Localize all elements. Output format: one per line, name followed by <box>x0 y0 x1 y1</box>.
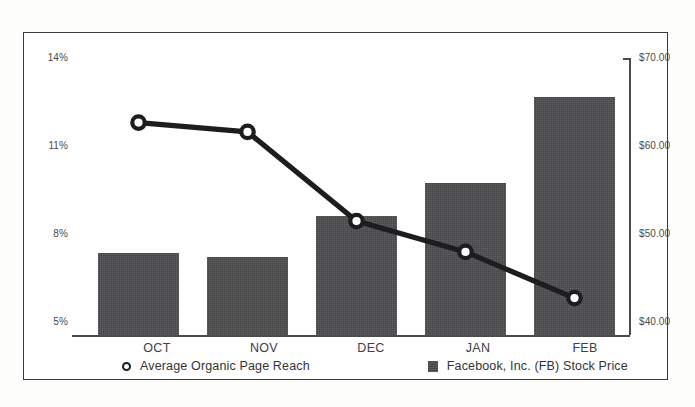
x-axis-label-nov: NOV <box>228 342 300 355</box>
chart-legend: Average Organic Page Reach Facebook, Inc… <box>84 355 644 377</box>
y-axis-left-tick-mark-5 <box>72 335 84 337</box>
chart-page: 14% 11% 8% 5% $70.00 $60.00 $50.00 $40.0… <box>0 0 695 407</box>
x-axis-label-feb: FEB <box>549 342 621 355</box>
line-marker-dec[interactable] <box>350 215 362 227</box>
y-axis-right-line <box>629 58 631 335</box>
x-axis-label-oct: OCT <box>121 342 193 355</box>
y-axis-right-tick-60: $60.00 <box>639 141 691 151</box>
chart-frame: 14% 11% 8% 5% $70.00 $60.00 $50.00 $40.0… <box>23 32 668 380</box>
y-axis-left-tick-8: 8% <box>24 229 68 239</box>
legend-label-average-organic-page-reach: Average Organic Page Reach <box>140 359 310 373</box>
line-marker-nov[interactable] <box>241 126 253 138</box>
circle-marker-icon <box>122 362 131 371</box>
y-axis-right-tick-70: $70.00 <box>639 53 691 63</box>
legend-item-facebook-stock-price[interactable]: Facebook, Inc. (FB) Stock Price <box>428 359 628 373</box>
legend-label-facebook-stock-price: Facebook, Inc. (FB) Stock Price <box>447 359 628 373</box>
line-marker-jan[interactable] <box>459 246 471 258</box>
y-axis-left-tick-11: 11% <box>24 141 68 151</box>
plot-area: OCT NOV DEC JAN FEB <box>84 46 629 336</box>
y-axis-right-tick-50: $50.00 <box>639 229 691 239</box>
line-marker-feb[interactable] <box>568 292 580 304</box>
y-axis-left-tick-14: 14% <box>24 53 68 63</box>
square-marker-icon <box>428 361 438 372</box>
line-marker-oct[interactable] <box>132 116 144 128</box>
y-axis-left-tick-5: 5% <box>24 317 68 327</box>
line-marker-group <box>132 116 580 304</box>
y-axis-right-tick-40: $40.00 <box>639 317 691 327</box>
x-axis-label-jan: JAN <box>442 342 514 355</box>
line-average-organic-page-reach <box>139 123 575 299</box>
x-axis-label-dec: DEC <box>335 342 407 355</box>
line-series-layer <box>84 46 629 336</box>
legend-item-average-organic-page-reach[interactable]: Average Organic Page Reach <box>122 359 310 373</box>
